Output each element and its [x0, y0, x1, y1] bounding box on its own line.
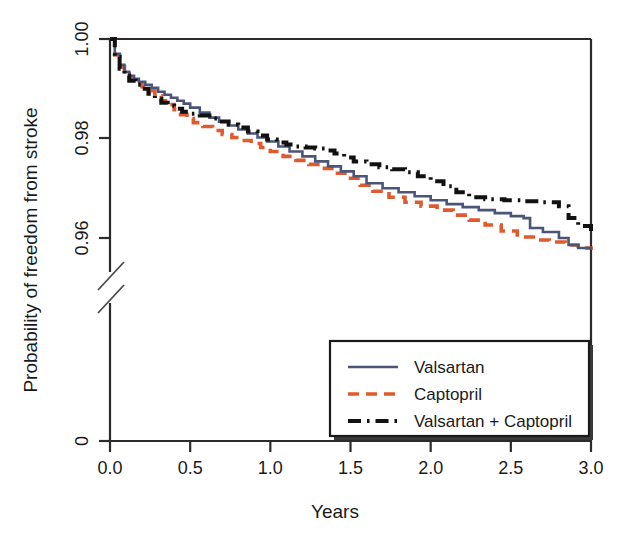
- x-tick-label-2.0: 2.0: [418, 458, 443, 478]
- x-axis-title-text: Years: [311, 501, 359, 522]
- y-axis-title: Probability of freedom from stroke: [20, 107, 41, 392]
- legend-label-2: Valsartan + Captopril: [414, 412, 572, 431]
- x-axis-ticks: [110, 441, 591, 452]
- y-tick-label-4: 0: [72, 436, 92, 446]
- x-tick-label-3.0: 3.0: [578, 458, 603, 478]
- y-axis-ticks: [99, 39, 110, 441]
- y-tick-label-1: 1.00: [72, 21, 92, 56]
- kaplan-meier-figure: Probability of freedom from stroke Years: [0, 0, 630, 543]
- y-tick-label-3: 0.96: [72, 220, 92, 255]
- y-axis-title-text: Probability of freedom from stroke: [20, 107, 41, 392]
- series-line-valsartan: [110, 39, 591, 250]
- x-tick-label-2.5: 2.5: [498, 458, 523, 478]
- x-tick-label-1.0: 1.0: [258, 458, 283, 478]
- chart-canvas: Probability of freedom from stroke Years: [0, 0, 630, 543]
- x-tick-label-0.0: 0.0: [97, 458, 122, 478]
- y-axis-tick-labels: 1.00 0.98 0.96 0: [72, 21, 92, 446]
- legend-label-1: Captopril: [414, 385, 482, 404]
- legend[interactable]: ValsartanCaptoprilValsartan + Captopril: [330, 341, 593, 440]
- x-axis-title: Years: [311, 501, 359, 522]
- x-axis-tick-labels: 0.00.51.01.52.02.53.0: [97, 458, 603, 478]
- x-tick-label-0.5: 0.5: [178, 458, 203, 478]
- y-tick-label-2: 0.98: [72, 120, 92, 155]
- data-series-group: [110, 39, 591, 250]
- series-line-captopril: [110, 39, 591, 250]
- series-line-valsartan-captopril: [110, 39, 591, 233]
- legend-label-0: Valsartan: [414, 358, 485, 377]
- x-tick-label-1.5: 1.5: [338, 458, 363, 478]
